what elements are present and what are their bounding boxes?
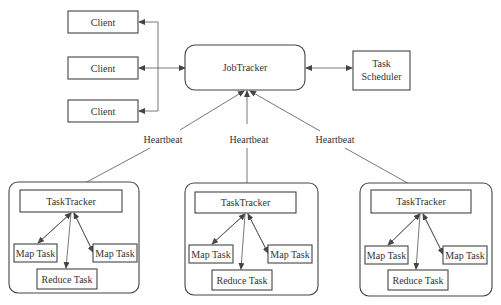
task-tracker-label: TaskTracker bbox=[46, 196, 96, 207]
task-node-2: TaskTracker Map Task Map Task Reduce Tas… bbox=[185, 183, 318, 295]
client-label: Client bbox=[91, 106, 116, 117]
map-task-label: Map Task bbox=[95, 248, 134, 259]
task-scheduler-box: Task Scheduler bbox=[353, 51, 410, 90]
task-tracker-label: TaskTracker bbox=[396, 196, 446, 207]
mapreduce-architecture-diagram: Client Client Client JobTracker Task Sch… bbox=[0, 0, 501, 305]
map-task-label: Map Task bbox=[270, 249, 309, 260]
task-tracker-label: TaskTracker bbox=[221, 197, 271, 208]
map-task-label: Map Task bbox=[16, 248, 55, 259]
heartbeat-label-left: Heartbeat bbox=[144, 134, 183, 145]
task-node-1: TaskTracker Map Task Map Task Reduce Tas… bbox=[9, 182, 139, 293]
job-tracker-box: JobTracker bbox=[185, 45, 305, 90]
map-task-label: Map Task bbox=[445, 250, 484, 261]
heartbeat-label-middle: Heartbeat bbox=[230, 134, 269, 145]
client-box-2: Client bbox=[68, 57, 138, 79]
job-tracker-label: JobTracker bbox=[223, 62, 268, 73]
client-box-1: Client bbox=[68, 11, 138, 33]
task-node-3: TaskTracker Map Task Map Task Reduce Tas… bbox=[360, 183, 492, 296]
client-box-3: Client bbox=[68, 100, 138, 122]
reduce-task-label: Reduce Task bbox=[392, 275, 443, 286]
task-scheduler-label-line1: Task bbox=[372, 58, 391, 69]
reduce-task-label: Reduce Task bbox=[41, 274, 92, 285]
reduce-task-label: Reduce Task bbox=[216, 275, 267, 286]
client-connectors bbox=[139, 22, 185, 111]
client-label: Client bbox=[91, 17, 116, 28]
task-scheduler-label-line2: Scheduler bbox=[362, 71, 403, 82]
map-task-label: Map Task bbox=[367, 250, 406, 261]
map-task-label: Map Task bbox=[191, 249, 230, 260]
heartbeat-label-right: Heartbeat bbox=[316, 134, 355, 145]
client-label: Client bbox=[91, 63, 116, 74]
